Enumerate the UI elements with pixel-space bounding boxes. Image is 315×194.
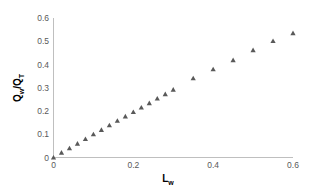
y-tick-label: 0.6 <box>37 13 49 23</box>
triangle-marker <box>163 92 168 97</box>
y-tick-label: 0.1 <box>37 129 49 139</box>
triangle-marker <box>115 118 120 123</box>
x-tick-label: 0.4 <box>207 160 219 170</box>
triangle-marker <box>107 123 112 128</box>
triangle-marker <box>67 146 72 151</box>
x-tick-label: 0.2 <box>127 160 139 170</box>
triangle-marker <box>75 141 80 146</box>
triangle-marker <box>139 105 144 110</box>
scatter-chart: 00.10.20.30.40.50.6 00.20.40.6 Lw Qw/QT <box>0 0 315 194</box>
triangle-marker <box>171 87 176 92</box>
triangle-marker <box>131 109 136 114</box>
triangle-marker <box>290 31 295 36</box>
y-tick-label: 0.5 <box>37 36 49 46</box>
triangle-marker <box>99 127 104 132</box>
y-tick-labels: 00.10.20.30.40.50.6 <box>37 13 49 163</box>
x-axis-title: Lw <box>162 173 174 186</box>
y-tick-label: 0 <box>44 153 49 163</box>
triangle-marker <box>59 150 64 155</box>
y-tick-label: 0.2 <box>37 106 49 116</box>
triangle-marker <box>250 48 255 53</box>
triangle-marker <box>270 39 275 44</box>
triangle-marker <box>123 114 128 119</box>
y-axis-title: Qw/QT <box>12 73 25 102</box>
x-tick-label: 0.6 <box>287 160 299 170</box>
x-tick-labels: 00.20.40.6 <box>51 160 299 170</box>
triangle-marker <box>155 96 160 101</box>
triangle-marker <box>91 132 96 137</box>
triangle-marker <box>211 67 216 72</box>
y-tick-label: 0.3 <box>37 83 49 93</box>
y-tick-label: 0.4 <box>37 60 49 70</box>
triangle-marker <box>83 136 88 141</box>
triangle-marker <box>147 101 152 106</box>
x-tick-label: 0 <box>51 160 56 170</box>
triangle-marker <box>231 58 236 63</box>
data-points <box>51 31 296 160</box>
triangle-marker <box>191 76 196 81</box>
